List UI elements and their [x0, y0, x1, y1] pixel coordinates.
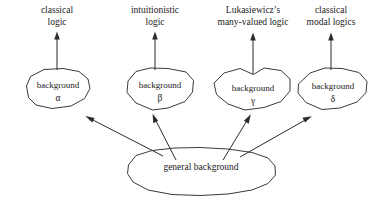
arrow-alpha-to-classical-logic [54, 32, 60, 71]
system-label-line2: logic [112, 16, 198, 28]
blob-label-alpha: background α [18, 80, 98, 104]
blob-label-greek: α [18, 92, 98, 104]
diagram-canvas [0, 0, 383, 220]
blob-label-word: background [232, 83, 275, 93]
system-label-line1: classical [17, 4, 97, 16]
blob-label-delta: background δ [293, 81, 373, 105]
system-label-intuitionistic-logic: intuitionistic logic [112, 4, 198, 28]
general-background-label: general background [141, 161, 261, 173]
system-label-classical-logic: classical logic [17, 4, 97, 28]
arrow-gamma-to-lukasiewicz-logic [250, 33, 256, 75]
blob-label-word: background [312, 81, 355, 91]
system-label-classical-modal-logics: classical modal logics [292, 4, 370, 28]
arrow-delta-to-modal-logics [328, 33, 334, 71]
blob-label-greek: β [120, 92, 200, 104]
arrow-beta-to-intuitionistic-logic [152, 32, 158, 71]
system-label-line1: Lukasiewicz’s [200, 4, 306, 16]
arrow-general-to-delta [240, 116, 312, 157]
blob-label-word: background [139, 80, 182, 90]
arrow-general-to-alpha [85, 116, 163, 156]
logic-backgrounds-diagram: classical logic intuitionistic logic Luk… [0, 0, 383, 220]
system-label-line2: many-valued logic [200, 16, 306, 28]
blob-label-gamma: background γ [213, 83, 293, 107]
system-label-line1: intuitionistic [112, 4, 198, 16]
system-label-line1: classical [292, 4, 370, 16]
blob-label-word: background [37, 80, 80, 90]
system-label-lukasiewicz-many-valued-logic: Lukasiewicz’s many-valued logic [200, 4, 306, 28]
system-label-line2: modal logics [292, 16, 370, 28]
blob-label-greek: δ [293, 93, 373, 105]
blob-label-greek: γ [213, 95, 293, 107]
blob-label-beta: background β [120, 80, 200, 104]
system-label-line2: logic [17, 16, 97, 28]
